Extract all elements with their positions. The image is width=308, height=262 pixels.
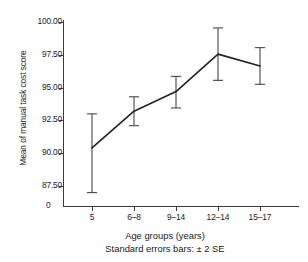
x-tick-mark [92,207,93,211]
x-axis-title: Age groups (years) [0,230,308,241]
error-bars-group [87,28,265,193]
x-tick-mark [260,207,261,211]
x-tick-mark [176,207,177,211]
chart-figure: Mean of manual task cost score 0 100.00 … [0,0,308,262]
error-bar-note: Standard errors bars: ± 2 SE [0,243,308,254]
x-tick-mark [218,207,219,211]
plot-area [0,0,308,262]
x-tick-mark [134,207,135,211]
